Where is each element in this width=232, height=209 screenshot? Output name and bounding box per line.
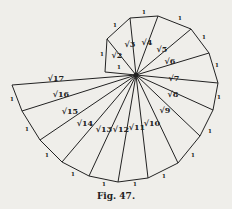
unit-segment — [178, 136, 200, 163]
figure-caption: Fig. 47. — [0, 191, 232, 201]
radius-label: √17 — [48, 73, 64, 83]
unit-segment — [105, 39, 107, 72]
unit-segment — [191, 29, 209, 53]
center-point — [134, 73, 139, 78]
unit-label: 1 — [100, 51, 104, 57]
radius-label: √8 — [168, 89, 179, 99]
radius-line — [62, 75, 136, 162]
radius-label: √11 — [129, 122, 145, 132]
figure: √2√3√4√5√6√7√8√9√10√11√12√13√14√15√16√17… — [0, 0, 232, 209]
unit-label: 1 — [133, 181, 137, 187]
unit-segment — [158, 16, 191, 29]
unit-segment — [130, 16, 158, 18]
radius-label: √5 — [157, 44, 168, 54]
radius-label: √2 — [112, 50, 123, 60]
unit-segment — [209, 53, 218, 83]
unit-label: 1 — [178, 15, 182, 21]
radius-label: √3 — [125, 39, 136, 49]
unit-label: 1 — [10, 96, 14, 102]
radius-label: √10 — [144, 118, 161, 128]
unit-label: 1 — [215, 62, 219, 68]
unit-label: 1 — [142, 9, 146, 15]
unit-label: 1 — [217, 94, 221, 100]
unit-segment — [62, 162, 89, 176]
radius-label: √14 — [77, 118, 94, 128]
radius-label: √4 — [142, 37, 153, 47]
radius-line — [12, 75, 136, 85]
base-unit-segment — [105, 72, 136, 75]
unit-label: 1 — [117, 64, 121, 70]
unit-label: 1 — [71, 171, 75, 177]
radius-line — [22, 75, 136, 111]
radius-label: √16 — [53, 89, 70, 99]
unit-label: 1 — [191, 152, 195, 158]
unit-label: 1 — [25, 126, 29, 132]
unit-segment — [40, 140, 62, 162]
unit-label: 1 — [208, 128, 212, 134]
unit-label: 1 — [45, 152, 49, 158]
unit-label: 1 — [113, 22, 117, 28]
spiral-of-theodorus: √2√3√4√5√6√7√8√9√10√11√12√13√14√15√16√17… — [0, 0, 232, 209]
unit-label: 1 — [102, 181, 106, 187]
unit-label: 1 — [202, 34, 206, 40]
radius-label: √13 — [96, 124, 113, 134]
unit-segment — [107, 18, 130, 39]
radius-label: √9 — [160, 105, 171, 115]
radius-label: √6 — [165, 56, 176, 66]
unit-label: 1 — [162, 173, 166, 179]
radius-label: √7 — [169, 73, 180, 83]
radius-label: √12 — [113, 124, 129, 134]
radius-label: √15 — [62, 106, 78, 116]
